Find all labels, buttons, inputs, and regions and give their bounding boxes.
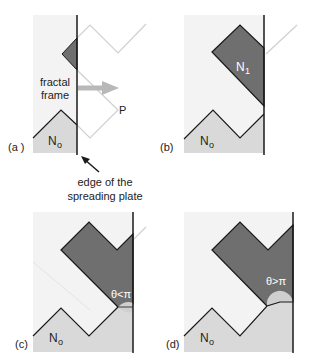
n0-label-main: N <box>49 331 58 345</box>
growth-outline <box>133 227 146 240</box>
panel-a: fractal frame P N o (a ) edge of the spr… <box>8 15 146 202</box>
panel-d-label: (d) <box>166 338 179 350</box>
fractal-label-line1: fractal <box>40 76 70 88</box>
fractal-label-line2: frame <box>41 89 69 101</box>
edge-caption-line2: spreading plate <box>67 190 142 202</box>
panel-a-label: (a ) <box>8 141 25 153</box>
n0-label-main: N <box>200 331 209 345</box>
n0-label-main: N <box>200 134 209 148</box>
panel-b-label: (b) <box>160 141 173 153</box>
n1-label-main: N <box>236 60 245 74</box>
n0-label-main: N <box>48 134 57 148</box>
growth-outline-bottom <box>77 70 118 138</box>
panel-b: N 1 N o (b) <box>160 15 297 155</box>
growth-arrow-icon <box>102 81 119 95</box>
angle-label: θ>π <box>266 275 287 287</box>
edge-caption-line1: edge of the <box>77 176 132 188</box>
panel-d: θ>π N o (d) <box>166 212 293 353</box>
panel-c-label: (c) <box>15 338 28 350</box>
n0-label-sub: o <box>58 337 63 347</box>
point-p-label: P <box>119 104 126 116</box>
growth-outline <box>266 25 297 54</box>
n0-label-sub: o <box>209 337 214 347</box>
growth-outline-top <box>77 24 146 53</box>
panel-c: θ<π N o (c) <box>15 212 146 353</box>
n1-label-sub: 1 <box>245 66 250 76</box>
n0-label-sub: o <box>209 140 214 150</box>
angle-label: θ<π <box>111 288 132 300</box>
fractal-frame-diagram: fractal frame P N o (a ) edge of the spr… <box>0 0 309 363</box>
n0-label-sub: o <box>57 140 62 150</box>
